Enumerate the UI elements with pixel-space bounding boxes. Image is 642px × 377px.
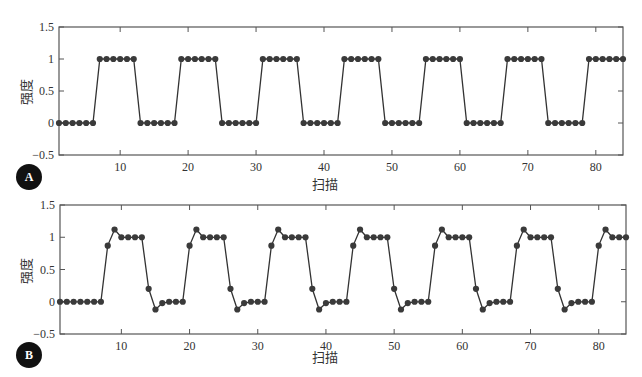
- data-point-marker: [371, 234, 377, 240]
- data-series-line: [59, 59, 623, 123]
- data-point-marker: [368, 56, 374, 62]
- x-axis-label-a: 扫描: [312, 174, 338, 193]
- data-point-marker: [559, 120, 565, 126]
- y-tick-label: 0.5: [39, 84, 54, 98]
- data-point-marker: [239, 120, 245, 126]
- data-point-marker: [514, 243, 520, 249]
- data-point-marker: [477, 120, 483, 126]
- data-point-marker: [439, 226, 445, 232]
- data-point-marker: [498, 120, 504, 126]
- data-point-marker: [443, 56, 449, 62]
- data-point-marker: [375, 56, 381, 62]
- data-point-marker: [364, 234, 370, 240]
- data-point-marker: [423, 56, 429, 62]
- x-tick-label: 10: [115, 339, 127, 353]
- x-tick-label: 70: [525, 339, 537, 353]
- data-point-marker: [396, 120, 402, 126]
- data-point-marker: [321, 120, 327, 126]
- y-axis-label-a: 强度: [16, 79, 35, 105]
- data-point-marker: [391, 286, 397, 292]
- data-point-marker: [464, 120, 470, 126]
- data-point-marker: [412, 299, 418, 305]
- data-point-marker: [416, 120, 422, 126]
- data-point-marker: [600, 56, 606, 62]
- data-point-marker: [221, 234, 227, 240]
- data-point-marker: [450, 56, 456, 62]
- data-point-marker: [527, 234, 533, 240]
- x-tick-label: 70: [522, 160, 534, 174]
- data-point-marker: [193, 226, 199, 232]
- data-point-marker: [620, 56, 626, 62]
- data-point-marker: [214, 234, 220, 240]
- data-point-marker: [260, 56, 266, 62]
- data-point-marker: [593, 56, 599, 62]
- data-point-marker: [56, 120, 62, 126]
- data-point-marker: [436, 56, 442, 62]
- data-point-marker: [296, 234, 302, 240]
- data-point-marker: [77, 299, 83, 305]
- data-point-marker: [323, 300, 329, 306]
- data-point-marker: [613, 56, 619, 62]
- data-point-marker: [171, 120, 177, 126]
- x-tick-label: 30: [250, 160, 262, 174]
- data-point-marker: [552, 120, 558, 126]
- data-point-marker: [534, 234, 540, 240]
- data-point-marker: [493, 299, 499, 305]
- data-point-marker: [538, 56, 544, 62]
- y-tick-label: 1: [48, 52, 54, 66]
- data-point-marker: [103, 56, 109, 62]
- data-point-marker: [582, 299, 588, 305]
- y-tick-label: 1.5: [40, 198, 55, 212]
- data-point-marker: [234, 306, 240, 312]
- data-point-marker: [261, 299, 267, 305]
- data-point-marker: [192, 56, 198, 62]
- x-axis-label-b: 扫描: [312, 347, 338, 366]
- data-point-marker: [227, 286, 233, 292]
- data-point-marker: [226, 120, 232, 126]
- data-point-marker: [253, 120, 259, 126]
- data-point-marker: [314, 120, 320, 126]
- data-point-marker: [302, 234, 308, 240]
- y-axis-label-b: 强度: [16, 258, 35, 284]
- data-point-marker: [83, 120, 89, 126]
- data-point-marker: [90, 120, 96, 126]
- data-point-marker: [545, 120, 551, 126]
- data-point-marker: [137, 120, 143, 126]
- x-tick-label: 30: [252, 339, 264, 353]
- y-tick-label: 0: [48, 116, 54, 130]
- data-point-marker: [343, 299, 349, 305]
- data-point-marker: [430, 56, 436, 62]
- data-point-marker: [566, 120, 572, 126]
- data-point-marker: [336, 299, 342, 305]
- data-point-marker: [452, 234, 458, 240]
- data-point-marker: [246, 120, 252, 126]
- data-point-marker: [348, 56, 354, 62]
- x-tick-label: 80: [590, 160, 602, 174]
- y-tick-label: −0.5: [32, 148, 54, 162]
- data-point-marker: [207, 234, 213, 240]
- data-point-marker: [341, 56, 347, 62]
- data-point-marker: [330, 299, 336, 305]
- data-point-marker: [484, 120, 490, 126]
- panel-badge-b: B: [16, 342, 42, 368]
- data-point-marker: [457, 56, 463, 62]
- data-point-marker: [405, 300, 411, 306]
- data-point-marker: [178, 56, 184, 62]
- data-series-line: [60, 230, 626, 310]
- data-point-marker: [511, 56, 517, 62]
- data-point-marker: [105, 243, 111, 249]
- plot-frame: [60, 205, 626, 334]
- data-point-marker: [521, 226, 527, 232]
- data-point-marker: [132, 234, 138, 240]
- data-point-marker: [212, 56, 218, 62]
- data-point-marker: [532, 56, 538, 62]
- data-point-marker: [273, 56, 279, 62]
- data-point-marker: [144, 120, 150, 126]
- data-point-marker: [268, 243, 274, 249]
- data-point-marker: [402, 120, 408, 126]
- data-point-marker: [507, 299, 513, 305]
- data-point-marker: [466, 234, 472, 240]
- data-point-marker: [470, 120, 476, 126]
- data-point-marker: [409, 120, 415, 126]
- data-point-marker: [487, 300, 493, 306]
